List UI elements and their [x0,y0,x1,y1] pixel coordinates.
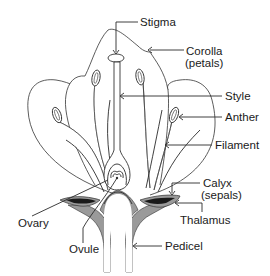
label-corolla: Corolla [186,45,223,57]
label-anther: Anther [225,111,259,123]
label-ovary: Ovary [18,217,49,229]
label-filament: Filament [215,139,260,151]
label-thalamus: Thalamus [180,214,231,226]
flower-diagram: Stigma Corolla (petals) Style Anther Fil… [0,0,270,276]
label-style: Style [225,90,251,102]
label-corolla-sub: (petals) [185,57,224,69]
label-pedicel: Pedicel [165,240,203,252]
label-calyx: Calyx [203,177,232,189]
stigma-shape [108,54,124,62]
label-calyx-sub: (sepals) [201,189,242,201]
label-stigma: Stigma [140,16,176,28]
label-ovule: Ovule [69,243,99,255]
